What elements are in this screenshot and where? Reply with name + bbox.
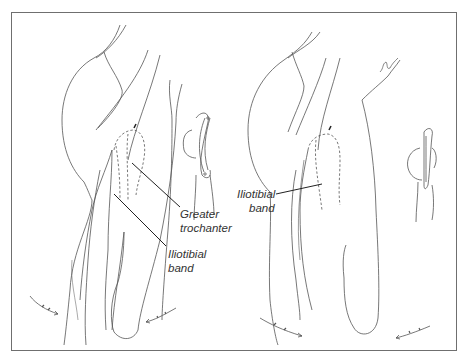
label-line: Iliotibial [168,247,206,261]
label-iliotibial-band-right: Iliotibial band [237,187,275,215]
label-line: band [237,201,275,215]
label-iliotibial-band-left: Iliotibial band [168,247,206,275]
label-line: band [168,261,206,275]
anatomical-illustration [0,0,468,363]
label-greater-trochanter: Greater trochanter [180,207,232,235]
right-panel-drawing [248,32,436,345]
label-line: trochanter [180,221,232,235]
left-panel-drawing [30,25,214,345]
label-line: Iliotibial [237,187,275,201]
label-line: Greater [180,207,232,221]
